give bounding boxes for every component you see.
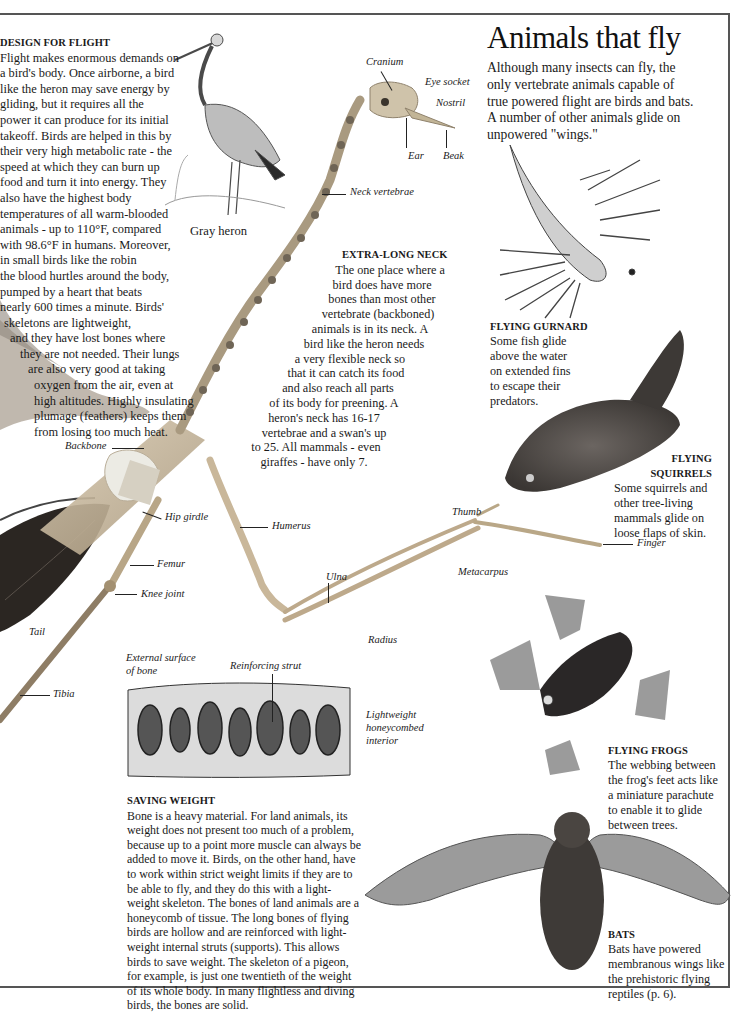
label-ulna: Ulna [326, 571, 347, 582]
label-humerus: Humerus [272, 520, 311, 531]
text-line: weight does not present too much of a pr… [127, 823, 427, 838]
text-line: oxygen from the air, even at [0, 378, 165, 394]
label-line: interior [366, 734, 424, 747]
intro-line: Although many insects can fly, the [487, 60, 727, 77]
text-line: to 25. All mammals - even [216, 440, 416, 455]
bone-section-illustration [128, 683, 350, 777]
text-line: vertebrae and a swan's up [224, 426, 424, 441]
page-title: Animals that fly [487, 20, 680, 56]
leader-line [322, 194, 346, 195]
caption-flying-squirrels: FLYING SQUIRRELS Some squirrels andother… [614, 451, 730, 541]
text-line: Some fish glide [490, 334, 588, 349]
label-external-surface: External surface of bone [126, 651, 196, 677]
text-line: like the heron may save energy by [0, 82, 165, 98]
text-line: from losing too much heat. [0, 425, 165, 441]
caption-body: Bats have poweredmembranous wings liketh… [608, 942, 724, 1002]
saving-weight-body: Bone is a heavy material. For land anima… [127, 809, 427, 1013]
flying-gurnard-illustration [500, 145, 660, 318]
label-eye-socket: Eye socket [425, 76, 470, 87]
label-line: of bone [126, 664, 196, 677]
label-cranium: Cranium [366, 56, 403, 67]
text-line: animals is in its neck. A [270, 322, 470, 337]
intro-text: Although many insects can fly, the only … [487, 60, 727, 144]
label-beak: Beak [443, 150, 464, 161]
text-line: to enable it to glide [608, 803, 718, 818]
caption-body: Some squirrels andother tree-livingmamma… [614, 481, 730, 541]
text-line: vertebrate (backboned) [278, 307, 478, 322]
leader-line [20, 695, 50, 696]
leader-line [115, 594, 137, 595]
text-line: a miniature parachute [608, 788, 718, 803]
text-line: of its whole body. In many flightless an… [127, 984, 427, 999]
label-line: honeycombed [366, 721, 424, 734]
caption-heading: FLYING [614, 451, 730, 466]
intro-line: only vertebrate animals capable of [487, 77, 727, 94]
text-line: speed at which they can burn up [0, 160, 165, 176]
text-line: Bats have powered [608, 942, 724, 957]
text-line: on extended fins [490, 364, 588, 379]
extra-long-neck-body: The one place where abird does have more… [260, 263, 460, 470]
text-line: the prehistoric flying [608, 972, 724, 987]
label-femur: Femur [157, 558, 185, 569]
caption-heading: FLYING GURNARD [490, 319, 588, 334]
leader-line [112, 448, 144, 449]
label-honeycomb-interior: Lightweight honeycombed interior [366, 708, 424, 747]
text-line: giraffes - have only 7. [214, 455, 414, 470]
label-ear: Ear [408, 150, 424, 161]
text-line: added to move it. Birds, on the other ha… [127, 852, 427, 867]
text-line: the blood hurtles around the body, [0, 269, 165, 285]
text-line: birds are hollow and are reinforced with… [127, 925, 427, 940]
text-line: Some squirrels and [614, 481, 730, 496]
text-line: between trees. [608, 818, 718, 833]
text-line: and they have lost bones where [0, 331, 165, 347]
text-line: of its body for preening. A [234, 396, 434, 411]
text-line: with 98.6°F in humans. Moreover, [0, 238, 165, 254]
label-line: External surface [126, 651, 196, 664]
caption-flying-frogs: FLYING FROGS The webbing betweenthe frog… [608, 743, 718, 833]
text-line: are also very good at taking [0, 362, 165, 378]
text-line: animals - up to 110°F, compared [0, 222, 165, 238]
text-line: they are not needed. Their lungs [0, 347, 165, 363]
extra-long-neck-section: EXTRA-LONG NECK The one place where abir… [260, 248, 460, 470]
label-tail: Tail [29, 626, 45, 637]
leader-line [328, 583, 329, 603]
text-line: birds to save weight. The skeleton of a … [127, 955, 427, 970]
extra-long-neck-heading: EXTRA-LONG NECK [342, 248, 460, 263]
text-line: nearly 600 times a minute. Birds' [0, 300, 165, 316]
label-neck-vertebrae: Neck vertebrae [350, 186, 414, 197]
text-line: the frog's feet acts like [608, 773, 718, 788]
text-line: The webbing between [608, 758, 718, 773]
text-line: temperatures of all warm-blooded [0, 207, 165, 223]
text-line: also have the highest body [0, 191, 165, 207]
leader-line [446, 130, 447, 148]
text-line: heron's neck has 16-17 [224, 411, 424, 426]
text-line: to escape their [490, 379, 588, 394]
text-line: in small birds like the robin [0, 253, 165, 269]
caption-body: The webbing betweenthe frog's feet acts … [608, 758, 718, 833]
heron-caption: Gray heron [190, 224, 247, 239]
intro-line: unpowered "wings." [487, 127, 727, 144]
text-line: Flight makes enormous demands on [0, 51, 165, 67]
label-tibia: Tibia [53, 688, 75, 699]
label-radius: Radius [368, 634, 397, 645]
text-line: because up to a point more muscle can al… [127, 838, 427, 853]
text-line: to work within strict weight limits if t… [127, 867, 427, 882]
caption-body: Some fish glideabove the wateron extende… [490, 334, 588, 409]
text-line: weight internal struts (supports). This … [127, 940, 427, 955]
text-line: food and turn it into energy. They [0, 175, 165, 191]
text-line: other tree-living [614, 496, 730, 511]
text-line: The one place where a [290, 263, 490, 278]
leader-line [240, 527, 268, 528]
text-line: takeoff. Birds are helped in this by [0, 129, 165, 145]
text-line: be able to fly, and they do this with a … [127, 882, 427, 897]
saving-weight-section: SAVING WEIGHT Bone is a heavy material. … [127, 794, 427, 1013]
text-line: skeletons are lightweight, [0, 316, 165, 332]
text-line: honeycomb of tissue. The long bones of f… [127, 911, 427, 926]
design-for-flight-heading: DESIGN FOR FLIGHT [0, 35, 165, 51]
text-line: Bone is a heavy material. For land anima… [127, 809, 427, 824]
text-line: mammals glide on [614, 511, 730, 526]
caption-flying-gurnard: FLYING GURNARD Some fish glideabove the … [490, 319, 588, 409]
caption-heading: SQUIRRELS [614, 466, 730, 481]
text-line: loose flaps of skin. [614, 526, 730, 541]
label-thumb: Thumb [452, 506, 481, 517]
